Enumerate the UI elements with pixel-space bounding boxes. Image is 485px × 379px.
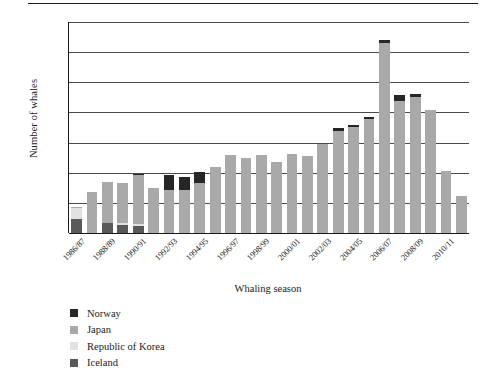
bar-segment-japan: [179, 190, 190, 233]
x-tick-label: 2002/03: [306, 236, 333, 263]
bar-stack[interactable]: [117, 183, 128, 233]
bar-segment-japan: [410, 97, 421, 233]
bar-segment-norway: [194, 172, 205, 183]
x-axis-tick-labels: 1986/871988/891990/911992/931994/951996/…: [68, 236, 468, 282]
bar-segment-japan: [456, 196, 467, 233]
bar-stack[interactable]: [348, 125, 359, 233]
bar-segment-iceland: [71, 219, 82, 233]
bar-segment-japan: [148, 188, 159, 233]
bar-stack[interactable]: [164, 175, 175, 233]
bar-stack[interactable]: [71, 207, 82, 233]
bar-stack[interactable]: [317, 144, 328, 233]
x-tick-label: 1994/95: [183, 236, 210, 263]
x-tick-label: 1992/93: [153, 236, 180, 263]
bar-stack[interactable]: [379, 40, 390, 233]
bar-stack[interactable]: [287, 154, 298, 233]
legend-item-label: Republic of Korea: [87, 341, 165, 352]
bar-segment-japan: [225, 155, 236, 233]
bar-segment-japan: [102, 182, 113, 223]
legend-item[interactable]: Iceland: [70, 355, 165, 372]
x-tick-label: 1988/89: [91, 236, 118, 263]
bar-stack[interactable]: [425, 110, 436, 233]
legend-swatch-icon: [70, 359, 78, 367]
x-tick-label: 1998/99: [245, 236, 272, 263]
bar-stack[interactable]: [364, 117, 375, 233]
bar-segment-norway: [164, 175, 175, 190]
bar-stack[interactable]: [241, 158, 252, 233]
bar-stack[interactable]: [441, 171, 452, 233]
y-axis-title: Number of whales: [28, 39, 39, 199]
x-tick-label: 1996/97: [214, 236, 241, 263]
x-tick-label: 2008/09: [399, 236, 426, 263]
bar-stack[interactable]: [87, 192, 98, 233]
bar-segment-iceland: [102, 223, 113, 233]
bar-stack[interactable]: [194, 172, 205, 233]
bar-segment-iceland: [133, 226, 144, 233]
bar-segment-japan: [364, 119, 375, 233]
bar-stack[interactable]: [394, 95, 405, 233]
x-tick-label: 1986/87: [60, 236, 87, 263]
bar-segment-japan: [287, 154, 298, 233]
bar-segment-japan: [333, 131, 344, 233]
bar-segment-japan: [317, 144, 328, 233]
bar-segment-japan: [194, 183, 205, 233]
chart-legend: NorwayJapanRepublic of KoreaIceland: [70, 305, 165, 371]
bar-segment-norway: [179, 177, 190, 190]
whaling-chart-figure: Number of whales 1,4001,2001,00080060040…: [0, 0, 485, 379]
legend-item-label: Iceland: [87, 357, 118, 368]
bar-stack[interactable]: [256, 155, 267, 233]
legend-item-label: Japan: [87, 324, 111, 335]
bar-segment-japan: [302, 156, 313, 233]
bar-stack[interactable]: [410, 94, 421, 233]
bar-segment-japan: [348, 127, 359, 233]
bar-stack[interactable]: [302, 156, 313, 233]
x-tick-label: 2004/05: [337, 236, 364, 263]
bar-stack[interactable]: [210, 167, 221, 233]
bar-segment-japan: [87, 192, 98, 233]
x-tick-label: 1990/91: [122, 236, 149, 263]
bar-segment-japan: [441, 171, 452, 233]
legend-swatch-icon: [70, 326, 78, 334]
legend-swatch-icon: [70, 309, 78, 317]
bar-stack[interactable]: [133, 174, 144, 233]
bar-segment-japan: [210, 167, 221, 233]
bar-stack[interactable]: [225, 155, 236, 233]
bar-stack[interactable]: [333, 128, 344, 233]
x-axis-title: Whaling season: [68, 283, 468, 294]
bar-segment-japan: [379, 43, 390, 233]
legend-item[interactable]: Japan: [70, 322, 165, 339]
x-tick-label: 2000/01: [276, 236, 303, 263]
bar-series-layer: [69, 22, 469, 233]
bar-segment-japan: [164, 190, 175, 233]
bar-segment-japan: [117, 183, 128, 223]
plot-area: 1,4001,2001,0008006004002000: [68, 22, 468, 233]
bar-stack[interactable]: [271, 162, 282, 233]
x-tick-label: 2010/11: [430, 236, 456, 262]
legend-swatch-icon: [70, 342, 78, 350]
bar-segment-republic-of-korea: [71, 208, 82, 219]
legend-item[interactable]: Republic of Korea: [70, 338, 165, 355]
bar-segment-japan: [425, 110, 436, 233]
x-tick-label: 2006/07: [368, 236, 395, 263]
bar-stack[interactable]: [456, 196, 467, 233]
bar-segment-japan: [271, 162, 282, 233]
bar-segment-japan: [394, 101, 405, 233]
bar-segment-japan: [133, 175, 144, 224]
bar-segment-iceland: [117, 225, 128, 233]
bar-segment-japan: [241, 158, 252, 233]
bar-segment-japan: [256, 155, 267, 233]
legend-item-label: Norway: [87, 308, 121, 319]
bar-stack[interactable]: [179, 177, 190, 233]
top-divider-rule: [28, 3, 478, 4]
gridline: [69, 233, 469, 234]
bar-stack[interactable]: [148, 188, 159, 233]
bar-stack[interactable]: [102, 182, 113, 233]
legend-item[interactable]: Norway: [70, 305, 165, 322]
